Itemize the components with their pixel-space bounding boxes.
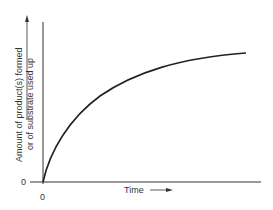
x-arrow-head xyxy=(166,188,173,192)
chart: 0 0 Time Amount of product(s) formed or … xyxy=(0,0,273,210)
x-axis-label: Time xyxy=(124,185,144,195)
y-axis-label-line2: or of substrate used up xyxy=(25,58,35,150)
x-origin-label: 0 xyxy=(40,192,45,202)
y-arrow-head xyxy=(25,15,29,22)
y-origin-label: 0 xyxy=(21,177,26,187)
saturation-curve xyxy=(43,53,246,182)
y-axis-label-line1: Amount of product(s) formed xyxy=(14,47,24,162)
